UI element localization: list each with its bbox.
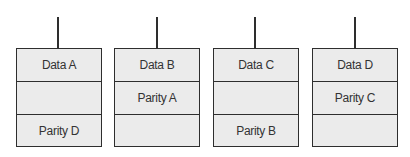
- disk-4-block-2: Parity C: [313, 81, 397, 114]
- disk-2-block-3: [115, 114, 199, 147]
- disk-4-block-3: [313, 114, 397, 147]
- disk-2-block-2: Parity A: [115, 81, 199, 114]
- disk-2-connector: [156, 17, 158, 48]
- disk-3-block-3: Parity B: [214, 114, 298, 147]
- disk-1-connector: [57, 17, 59, 48]
- disk-1-block-2: [17, 81, 101, 114]
- disk-3-block-2: [214, 81, 298, 114]
- disk-2-block-1: Data B: [115, 49, 199, 81]
- disk-4-block-1: Data D: [313, 49, 397, 81]
- disk-4: Data D Parity C: [312, 48, 398, 147]
- disk-1-block-1: Data A: [17, 49, 101, 81]
- disk-1-block-3: Parity D: [17, 114, 101, 147]
- disk-4-connector: [354, 17, 356, 48]
- disk-3-block-1: Data C: [214, 49, 298, 81]
- disk-3-connector: [254, 17, 256, 48]
- disk-3: Data C Parity B: [213, 48, 299, 147]
- disk-1: Data A Parity D: [16, 48, 102, 147]
- disk-2: Data B Parity A: [114, 48, 200, 147]
